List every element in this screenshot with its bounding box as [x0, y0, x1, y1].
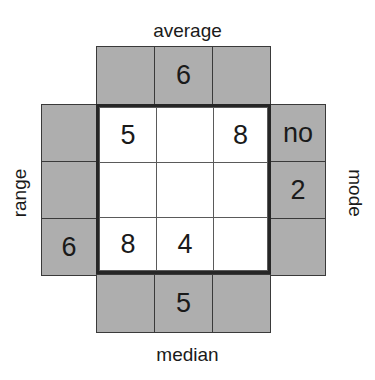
answer-cell-2-2[interactable]	[213, 217, 268, 271]
clue-cell-top-0[interactable]	[96, 46, 155, 105]
clue-cell-left-2[interactable]: 6	[41, 218, 97, 276]
answer-cell-2-1[interactable]: 4	[156, 217, 214, 271]
clue-cell-bottom-2[interactable]	[212, 274, 271, 333]
clue-label-average: average	[0, 20, 375, 42]
clue-cell-bottom-1[interactable]: 5	[154, 274, 213, 333]
answer-cell-0-1[interactable]	[156, 107, 214, 163]
answer-cell-0-0[interactable]: 5	[99, 107, 157, 163]
clue-label-mode: mode	[344, 133, 366, 253]
clue-cell-bottom-0[interactable]	[96, 274, 155, 333]
clue-label-median: median	[0, 344, 375, 366]
clue-cell-right-2[interactable]	[270, 218, 326, 276]
answer-cell-1-0[interactable]	[99, 162, 157, 218]
clue-cell-left-0[interactable]	[41, 104, 97, 162]
clue-cell-left-1[interactable]	[41, 161, 97, 219]
clue-cell-right-0[interactable]: no	[270, 104, 326, 162]
answer-cell-1-2[interactable]	[213, 162, 268, 218]
answer-cell-0-2[interactable]: 8	[213, 107, 268, 163]
cross-number-puzzle: average 6 6 no 2 5 5 8 8 4 range mode me…	[0, 0, 375, 380]
answer-cell-2-0[interactable]: 8	[99, 217, 157, 271]
clue-label-range: range	[9, 133, 31, 253]
clue-cell-right-1[interactable]: 2	[270, 161, 326, 219]
clue-cell-top-2[interactable]	[212, 46, 271, 105]
clue-cell-top-1[interactable]: 6	[154, 46, 213, 105]
answer-cell-1-1[interactable]	[156, 162, 214, 218]
